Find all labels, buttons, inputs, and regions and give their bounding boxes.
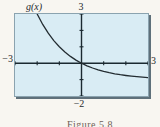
figure-container: g(x) 3 −3 3 −2 Figure 5.8 <box>0 0 160 127</box>
y-max-label: 3 <box>70 1 92 12</box>
x-max-label: 3 <box>151 55 160 66</box>
graph-canvas <box>15 14 148 96</box>
g-curve <box>37 14 148 78</box>
plot-window <box>14 13 149 97</box>
x-min-label: −3 <box>0 53 13 64</box>
function-label: g(x) <box>26 1 42 12</box>
y-min-label: −2 <box>68 98 90 109</box>
figure-caption: Figure 5.8 <box>40 119 140 127</box>
